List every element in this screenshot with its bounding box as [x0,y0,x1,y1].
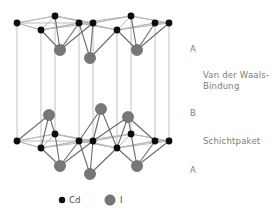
layer-label-a-bottom: A [190,165,196,175]
legend-i-marker [105,195,115,205]
cd-atom [52,13,59,20]
i-atom [131,44,142,55]
cd-atom [152,20,159,27]
layer-label-b: B [190,108,196,118]
schichtpaket-label: Schichtpaket [203,136,260,146]
layer-label-a-top: A [190,44,196,54]
cd-atom [90,138,97,145]
cd-atom [76,20,83,27]
crystal-structure-svg [0,0,275,217]
legend-cd-marker [59,197,65,203]
cd-atom [14,20,21,27]
figure-root: A Van der Waals- Bindung B Schichtpaket … [0,0,275,217]
cd-atom [76,138,83,145]
cd-atom [38,27,45,34]
i-atom [84,168,95,179]
i-atom [95,103,106,114]
cd-atom [14,138,21,145]
cd-atom [128,13,135,20]
i-atom [131,160,142,171]
i-atom [43,109,54,120]
cd-atom [114,27,121,34]
cd-atom [152,138,159,145]
cd-atom [128,131,135,138]
i-atom [54,44,65,55]
cd-atom [38,145,45,152]
cd-atom [90,20,97,27]
cd-atom [114,145,121,152]
legend-label-cd: Cd [69,195,80,205]
cd-atom [52,131,59,138]
legend-label-i: I [120,195,123,205]
van-der-waals-label-line1: Van der Waals- [203,70,269,80]
van-der-waals-label-line2: Bindung [203,81,240,91]
i-atom [84,52,95,63]
cd-atom [166,138,173,145]
cd-atom [166,20,173,27]
i-atom [54,160,65,171]
i-atom [122,111,133,122]
